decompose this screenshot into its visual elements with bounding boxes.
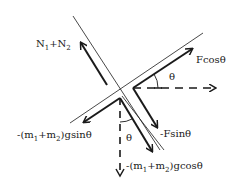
force-diagram (0, 0, 244, 194)
gsin-label: -(m1+m2)gsinθ (17, 130, 92, 143)
fsin-arrow (133, 88, 157, 127)
gcos-arrow (120, 98, 152, 151)
perpendicular-axis-line (70, 33, 203, 123)
angle-arc-top (154, 74, 158, 88)
fcos-arrow (133, 49, 192, 88)
normal-force-label: N1+N2 (36, 39, 71, 52)
fcos-label: Fcosθ (196, 55, 226, 65)
angle-arc-bottom (120, 119, 132, 122)
gravity-arrowhead (116, 169, 124, 176)
gcos-label: -(m1+m2)gcosθ (126, 161, 203, 174)
theta-bottom-label: θ (126, 133, 132, 143)
normal-force-arrow (81, 43, 107, 85)
fsin-label: -Fsinθ (160, 129, 191, 139)
theta-top-label: θ (169, 72, 175, 82)
